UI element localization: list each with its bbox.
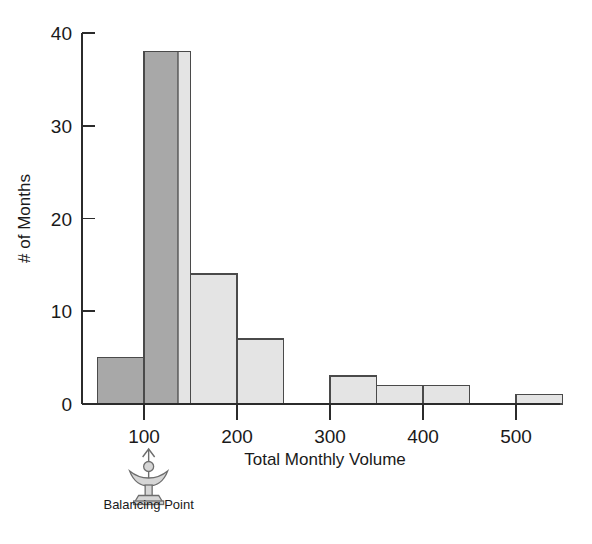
x-axis-ticks: 100200300400500 xyxy=(128,404,532,447)
y-tick-label: 20 xyxy=(51,209,72,230)
fulcrum-column xyxy=(145,485,152,496)
x-axis-title: Total Monthly Volume xyxy=(244,450,406,469)
y-tick-label: 0 xyxy=(61,394,72,415)
bars-group xyxy=(98,52,563,404)
histogram-bar xyxy=(423,385,470,404)
histogram-chart: 010203040 100200300400500 # of Months To… xyxy=(0,0,592,544)
histogram-svg: 010203040 100200300400500 # of Months To… xyxy=(0,0,592,544)
x-tick-label: 100 xyxy=(128,426,160,447)
histogram-bar xyxy=(237,339,284,404)
histogram-bar xyxy=(516,395,563,404)
y-tick-label: 40 xyxy=(51,23,72,44)
histogram-bar xyxy=(377,385,424,404)
balancing-point-label: Balancing Point xyxy=(103,497,194,512)
y-tick-label: 30 xyxy=(51,116,72,137)
balancing-point-annotation: Balancing Point xyxy=(103,449,194,512)
x-tick-label: 500 xyxy=(500,426,532,447)
y-axis-title: # of Months xyxy=(15,174,34,263)
y-tick-label: 10 xyxy=(51,301,72,322)
histogram-bar xyxy=(144,52,191,404)
x-tick-label: 200 xyxy=(221,426,253,447)
x-tick-label: 400 xyxy=(407,426,439,447)
y-axis-ticks: 010203040 xyxy=(51,23,95,415)
histogram-bar xyxy=(191,274,238,404)
histogram-bar xyxy=(98,358,145,404)
x-tick-label: 300 xyxy=(314,426,346,447)
fulcrum-pivot-ball xyxy=(144,462,154,472)
histogram-bar xyxy=(330,376,377,404)
